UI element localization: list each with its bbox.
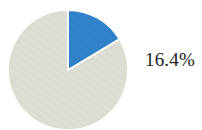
pie-slice-value-label: 16.4% xyxy=(138,47,202,73)
pie-chart-figure: 16.4% xyxy=(0,0,202,130)
